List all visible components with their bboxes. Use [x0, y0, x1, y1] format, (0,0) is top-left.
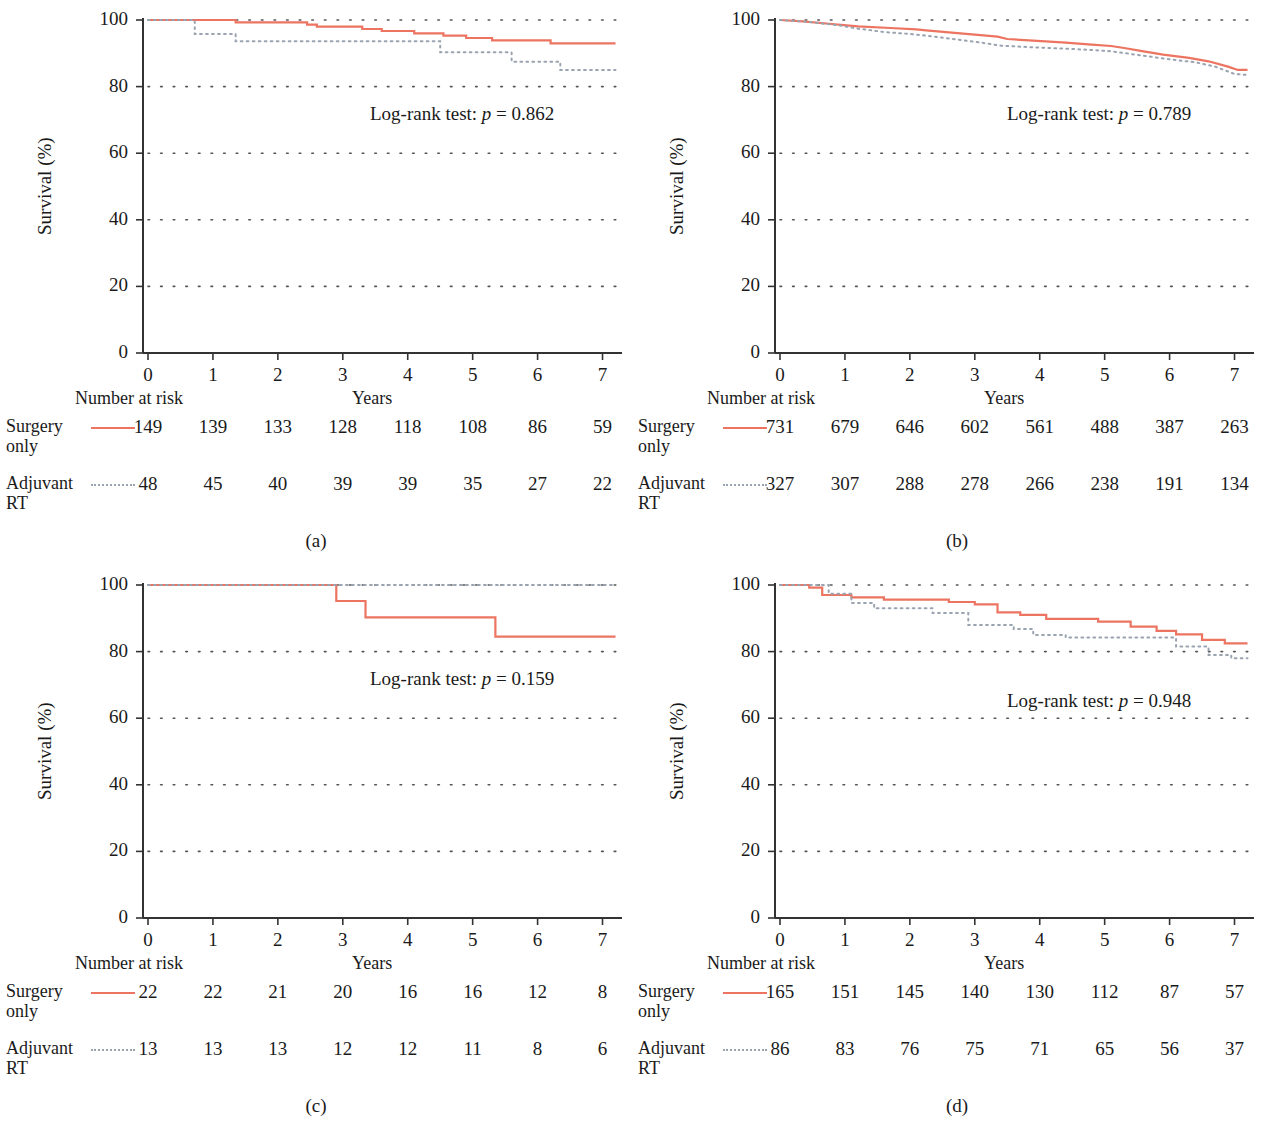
x-tick-label-d: 7: [1221, 929, 1249, 951]
risk-value: 39: [323, 473, 363, 495]
y-tick-label-d: 60: [714, 706, 760, 728]
survival-plot-c: [0, 565, 631, 955]
y-tick-label-c: 60: [82, 706, 128, 728]
y-tick-label-b: 0: [714, 341, 760, 363]
risk-value: 8: [583, 981, 623, 1003]
curve-surgery-only-c: [148, 585, 616, 637]
risk-value: 238: [1085, 473, 1125, 495]
pvalue-annotation-a: Log-rank test: p = 0.862: [370, 103, 554, 125]
y-tick-label-c: 40: [82, 773, 128, 795]
pvalue-symbol-c: p: [482, 668, 492, 689]
risk-row-label-d-surgery-only: Surgeryonly: [638, 981, 695, 1021]
x-tick-label-d: 5: [1091, 929, 1119, 951]
x-axis-label-c: Years: [352, 953, 392, 974]
x-tick-label-b: 4: [1026, 364, 1054, 386]
risk-row-label-line1: Adjuvant: [6, 473, 73, 493]
risk-row-label-line2: RT: [6, 1058, 73, 1078]
y-tick-label-b: 100: [714, 8, 760, 30]
risk-value: 561: [1020, 416, 1060, 438]
x-axis-label-b: Years: [984, 388, 1024, 409]
risk-table-header-b: Number at risk: [707, 388, 815, 409]
risk-value: 266: [1020, 473, 1060, 495]
x-tick-label-b: 3: [961, 364, 989, 386]
risk-row-label-c-adjuvant-rt: AdjuvantRT: [6, 1038, 73, 1078]
risk-row-label-b-surgery-only: Surgeryonly: [638, 416, 695, 456]
curve-adjuvant-rt-a: [148, 20, 616, 70]
pvalue-prefix-d: Log-rank test:: [1007, 690, 1119, 711]
x-tick-label-a: 1: [199, 364, 227, 386]
risk-value: 112: [1085, 981, 1125, 1003]
y-tick-label-a: 60: [82, 141, 128, 163]
x-tick-label-b: 1: [831, 364, 859, 386]
pvalue-annotation-d: Log-rank test: p = 0.948: [1007, 690, 1191, 712]
y-tick-label-c: 0: [82, 906, 128, 928]
risk-row-label-line1: Adjuvant: [6, 1038, 73, 1058]
risk-value: 16: [453, 981, 493, 1003]
x-tick-label-c: 2: [264, 929, 292, 951]
risk-row-label-line1: Surgery: [6, 416, 63, 436]
gridlines-d: [780, 585, 1254, 851]
panel-caption-a: (a): [286, 530, 346, 552]
gridlines-b: [780, 20, 1254, 286]
curves-b: [780, 20, 1248, 75]
risk-value: 21: [258, 981, 298, 1003]
plot-area-c: Survival (%) Log-rank test: p = 0.159 02…: [0, 565, 631, 955]
panel-a: Survival (%) Log-rank test: p = 0.862 02…: [0, 0, 631, 573]
risk-row-label-a-surgery-only: Surgeryonly: [6, 416, 63, 456]
plot-area-b: Survival (%) Log-rank test: p = 0.789 02…: [632, 0, 1263, 390]
pvalue-value-a: = 0.862: [491, 103, 554, 124]
risk-value: 12: [323, 1038, 363, 1060]
panel-caption-d: (d): [927, 1095, 987, 1117]
y-tick-label-b: 20: [714, 274, 760, 296]
x-tick-label-c: 5: [459, 929, 487, 951]
x-tick-label-d: 6: [1156, 929, 1184, 951]
risk-row-label-line1: Surgery: [638, 981, 695, 1001]
risk-row-label-line1: Adjuvant: [638, 473, 705, 493]
risk-row-label-line2: RT: [638, 1058, 705, 1078]
risk-value: 13: [193, 1038, 233, 1060]
pvalue-symbol-a: p: [482, 103, 492, 124]
risk-row-label-line2: RT: [638, 493, 705, 513]
risk-value: 71: [1020, 1038, 1060, 1060]
y-axis-label-d: Survival (%): [666, 702, 688, 800]
curves-a: [148, 20, 616, 70]
curve-surgery-only-a: [148, 20, 616, 43]
risk-value: 327: [760, 473, 800, 495]
x-tick-label-d: 4: [1026, 929, 1054, 951]
risk-value: 27: [518, 473, 558, 495]
curves-c: [148, 585, 616, 637]
risk-value: 8: [518, 1038, 558, 1060]
pvalue-value-c: = 0.159: [491, 668, 554, 689]
x-tick-label-a: 7: [589, 364, 617, 386]
risk-row-label-line2: RT: [6, 493, 73, 513]
x-tick-label-d: 0: [766, 929, 794, 951]
risk-value: 488: [1085, 416, 1125, 438]
risk-value: 149: [128, 416, 168, 438]
risk-row-label-line2: only: [638, 436, 695, 456]
x-tick-label-c: 1: [199, 929, 227, 951]
risk-value: 6: [583, 1038, 623, 1060]
risk-value: 13: [258, 1038, 298, 1060]
risk-row-label-b-adjuvant-rt: AdjuvantRT: [638, 473, 705, 513]
risk-value: 22: [193, 981, 233, 1003]
y-axis-label-a: Survival (%): [34, 137, 56, 235]
axes-b: [768, 18, 1254, 360]
risk-value: 133: [258, 416, 298, 438]
gridlines-c: [148, 585, 622, 851]
x-tick-label-b: 7: [1221, 364, 1249, 386]
risk-value: 48: [128, 473, 168, 495]
risk-row-label-line1: Adjuvant: [638, 1038, 705, 1058]
risk-row-label-line2: only: [6, 436, 63, 456]
y-axis-label-c: Survival (%): [34, 702, 56, 800]
risk-value: 76: [890, 1038, 930, 1060]
curves-d: [780, 585, 1248, 658]
risk-table-header-d: Number at risk: [707, 953, 815, 974]
y-tick-label-a: 80: [82, 75, 128, 97]
y-tick-label-b: 80: [714, 75, 760, 97]
risk-value: 11: [453, 1038, 493, 1060]
risk-row-label-c-surgery-only: Surgeryonly: [6, 981, 63, 1021]
panel-d: Survival (%) Log-rank test: p = 0.948 02…: [632, 565, 1263, 1138]
risk-row-label-line1: Surgery: [6, 981, 63, 1001]
curve-adjuvant-rt-b: [780, 20, 1248, 75]
risk-table-header-c: Number at risk: [75, 953, 183, 974]
